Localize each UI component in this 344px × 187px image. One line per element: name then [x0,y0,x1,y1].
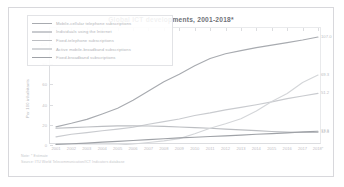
legend-swatch [32,48,52,50]
x-tick-mark [256,28,257,31]
y-tick-label: 40 [42,102,47,107]
legend-label: Fixed-telephone subscriptions [56,38,114,43]
y-tick-mark [50,125,53,126]
x-tick-label: 2011 [206,146,215,151]
x-tick-label: 2015 [267,146,276,151]
y-tick-mark [50,84,53,85]
legend-item[interactable]: Active mobile-broadband subscriptions [32,45,168,54]
legend-swatch [32,23,52,25]
legend-item[interactable]: Individuals using the Internet [32,28,168,37]
series-line [56,75,318,145]
x-tick-mark [241,28,242,31]
x-tick-mark [272,28,273,31]
chart-legend: Mobile-cellular telephone subscriptionsI… [27,15,173,66]
x-tick-label: 2018* [313,146,324,151]
series-line [56,93,318,137]
legend-item[interactable]: Fixed-broadband subscriptions [32,53,168,62]
x-tick-mark [195,28,196,31]
x-tick-label: 2005 [113,146,122,151]
x-tick-mark [210,28,211,31]
legend-item[interactable]: Fixed-telephone subscriptions [32,36,168,45]
legend-label: Fixed-broadband subscriptions [56,55,116,60]
legend-label: Mobile-cellular telephone subscriptions [56,21,131,26]
x-tick-label: 2004 [98,146,107,151]
legend-label: Active mobile-broadband subscriptions [56,47,131,52]
y-tick-label: 60 [42,82,47,87]
x-tick-label: 2009 [175,146,184,151]
legend-label: Individuals using the Internet [56,29,112,34]
series-end-label: 107.0 [321,34,331,39]
footnote-source: Source: ITU World Telecommunication/ICT … [21,160,125,164]
x-tick-label: 2002 [67,146,76,151]
x-tick-label: 2001 [51,146,60,151]
x-tick-mark [287,28,288,31]
x-tick-label: 2006 [128,146,137,151]
x-tick-label: 2013 [236,146,245,151]
footnote-note: Note: * Estimate [21,154,48,158]
x-tick-label: 2012 [221,146,230,151]
y-tick-mark [50,105,53,106]
legend-item[interactable]: Mobile-cellular telephone subscriptions [32,19,168,28]
x-tick-label: 2017 [298,146,307,151]
y-tick-label: 0 [45,143,47,148]
x-tick-mark [303,28,304,31]
x-tick-label: 2007 [144,146,153,151]
y-tick-label: 20 [42,122,47,127]
x-tick-label: 2003 [82,146,91,151]
x-tick-mark [318,28,319,31]
x-tick-label: 2014 [252,146,261,151]
chart-card: Global ICT developments, 2001-2018* Per … [8,7,334,177]
legend-swatch [32,31,52,33]
series-end-label: 51.2 [321,90,329,95]
series-line [56,131,318,144]
y-axis-label: Per 100 inhabitants [25,69,30,129]
x-tick-label: 2008 [159,146,168,151]
legend-swatch [32,40,52,42]
series-end-label: 13.6 [321,128,329,133]
series-end-label: 69.3 [321,72,329,77]
x-tick-mark [226,28,227,31]
legend-swatch [32,57,52,59]
x-tick-label: 2016 [283,146,292,151]
x-tick-mark [179,28,180,31]
x-tick-label: 2010 [190,146,199,151]
